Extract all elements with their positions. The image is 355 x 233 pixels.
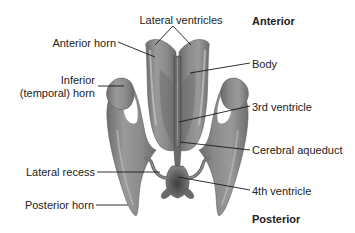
label-anterior: Anterior xyxy=(252,15,295,27)
leader-lateral-ventricles-right xyxy=(173,26,191,45)
label-posterior-horn: Posterior horn xyxy=(5,199,94,211)
cerebral-aqueduct xyxy=(174,147,181,167)
label-body: Body xyxy=(252,58,277,70)
ventricular-system-diagram: Lateral ventricles Anterior Anterior hor… xyxy=(0,0,355,233)
label-third-ventricle: 3rd ventricle xyxy=(252,101,312,113)
label-anterior-horn: Anterior horn xyxy=(20,37,116,49)
label-lateral-recess: Lateral recess xyxy=(10,166,95,178)
third-ventricle xyxy=(174,56,181,150)
label-inferior-horn-line2: (temporal) horn xyxy=(10,87,95,99)
label-fourth-ventricle: 4th ventricle xyxy=(252,185,311,197)
label-posterior: Posterior xyxy=(252,213,300,225)
label-lateral-ventricles: Lateral ventricles xyxy=(131,14,231,26)
label-inferior-horn-line1: Inferior xyxy=(10,74,95,86)
label-cerebral-aqueduct: Cerebral aqueduct xyxy=(252,144,343,156)
